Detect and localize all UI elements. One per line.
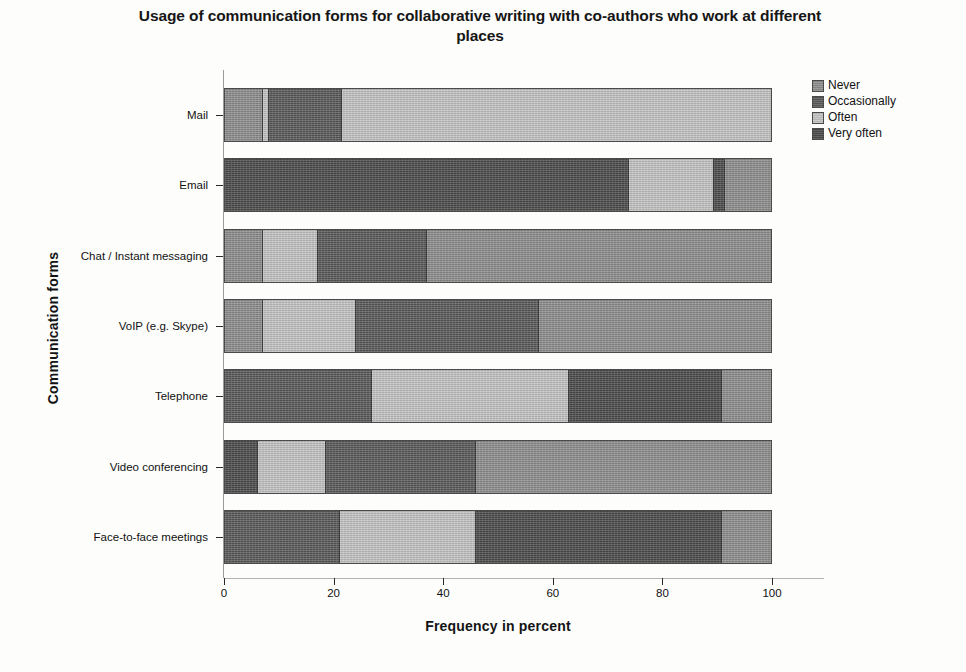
legend-item[interactable]: Occasionally — [812, 94, 896, 109]
bar-segment[interactable] — [569, 370, 722, 422]
legend-swatch-icon — [812, 128, 824, 140]
x-axis-tick-label: 0 — [221, 587, 227, 599]
bar-row — [224, 369, 772, 423]
bar-segment[interactable] — [372, 370, 569, 422]
x-axis-tick-mark — [224, 578, 225, 585]
bar-segment[interactable] — [629, 159, 714, 211]
y-axis-tick-mark — [216, 185, 223, 186]
bar-row — [224, 510, 772, 564]
bar-segment[interactable] — [539, 300, 771, 352]
bar-segment[interactable] — [342, 89, 771, 141]
y-axis-tick-mark — [216, 467, 223, 468]
legend-label: Never — [828, 78, 860, 93]
chart-container: Usage of communication forms for collabo… — [0, 0, 966, 672]
y-axis-tick-mark — [216, 537, 223, 538]
legend-swatch-icon — [812, 80, 824, 92]
x-axis-tick-label: 100 — [762, 587, 781, 599]
bar-segment[interactable] — [714, 159, 725, 211]
bar-segment[interactable] — [356, 300, 539, 352]
stacked-bar[interactable] — [224, 158, 772, 212]
bar-segment[interactable] — [722, 370, 771, 422]
y-axis-tick-label: VoIP (e.g. Skype) — [119, 320, 208, 332]
stacked-bar[interactable] — [224, 299, 772, 353]
y-axis-tick-labels: MailEmailChat / Instant messagingVoIP (e… — [0, 80, 216, 572]
y-axis-tick-label: Mail — [187, 109, 208, 121]
bar-segment[interactable] — [340, 511, 477, 563]
bar-segment[interactable] — [427, 230, 771, 282]
bar-segment[interactable] — [225, 89, 263, 141]
y-axis-tick-mark — [216, 326, 223, 327]
bar-segment[interactable] — [225, 511, 340, 563]
y-axis-tick-label: Video conferencing — [110, 461, 208, 473]
bar-segment[interactable] — [225, 300, 263, 352]
bar-row — [224, 440, 772, 494]
bar-segment[interactable] — [225, 230, 263, 282]
bar-segment[interactable] — [269, 89, 343, 141]
legend-swatch-icon — [812, 96, 824, 108]
x-axis-tick-label: 60 — [546, 587, 559, 599]
y-axis-tick-label: Face-to-face meetings — [94, 531, 208, 543]
bar-segment[interactable] — [476, 511, 722, 563]
y-axis-tick-label: Chat / Instant messaging — [81, 250, 208, 262]
legend-swatch-icon — [812, 112, 824, 124]
bar-segment[interactable] — [263, 300, 356, 352]
legend-item[interactable]: Very often — [812, 126, 896, 141]
x-axis-tick-label: 20 — [327, 587, 340, 599]
x-axis-tick-label: 40 — [437, 587, 450, 599]
x-axis-tick-mark — [334, 578, 335, 585]
bar-row — [224, 229, 772, 283]
bar-segment[interactable] — [225, 159, 629, 211]
legend-label: Very often — [828, 126, 882, 141]
plot-area — [224, 80, 772, 572]
bar-row — [224, 88, 772, 142]
x-axis-ticks: 020406080100 — [0, 578, 966, 618]
legend-label: Occasionally — [828, 94, 896, 109]
stacked-bar[interactable] — [224, 369, 772, 423]
legend-item[interactable]: Often — [812, 110, 896, 125]
legend-item[interactable]: Never — [812, 78, 896, 93]
x-axis-tick-mark — [772, 578, 773, 585]
stacked-bar[interactable] — [224, 88, 772, 142]
bar-segment[interactable] — [326, 441, 476, 493]
stacked-bar[interactable] — [224, 440, 772, 494]
y-axis-title: Communication forms — [45, 213, 61, 443]
y-axis-tick-label: Telephone — [155, 390, 208, 402]
y-axis-tick-mark — [216, 396, 223, 397]
bar-segment[interactable] — [476, 441, 771, 493]
y-axis-tick-label: Email — [179, 179, 208, 191]
y-axis-tick-mark — [216, 115, 223, 116]
x-axis-title: Frequency in percent — [224, 618, 772, 634]
legend-label: Often — [828, 110, 857, 125]
bar-segment[interactable] — [258, 441, 326, 493]
bar-segment[interactable] — [318, 230, 427, 282]
bar-segment[interactable] — [263, 230, 318, 282]
x-axis-tick-label: 80 — [656, 587, 669, 599]
bar-row — [224, 299, 772, 353]
x-axis-tick-mark — [662, 578, 663, 585]
chart-title: Usage of communication forms for collabo… — [120, 6, 840, 47]
y-axis-tick-mark — [216, 256, 223, 257]
x-axis-tick-mark — [553, 578, 554, 585]
stacked-bar[interactable] — [224, 510, 772, 564]
x-axis-tick-mark — [443, 578, 444, 585]
bar-segment[interactable] — [225, 441, 258, 493]
bar-segment[interactable] — [225, 370, 372, 422]
bar-row — [224, 158, 772, 212]
bar-segment[interactable] — [725, 159, 771, 211]
stacked-bar[interactable] — [224, 229, 772, 283]
bar-segment[interactable] — [722, 511, 771, 563]
chart-legend: NeverOccasionallyOftenVery often — [812, 78, 896, 141]
